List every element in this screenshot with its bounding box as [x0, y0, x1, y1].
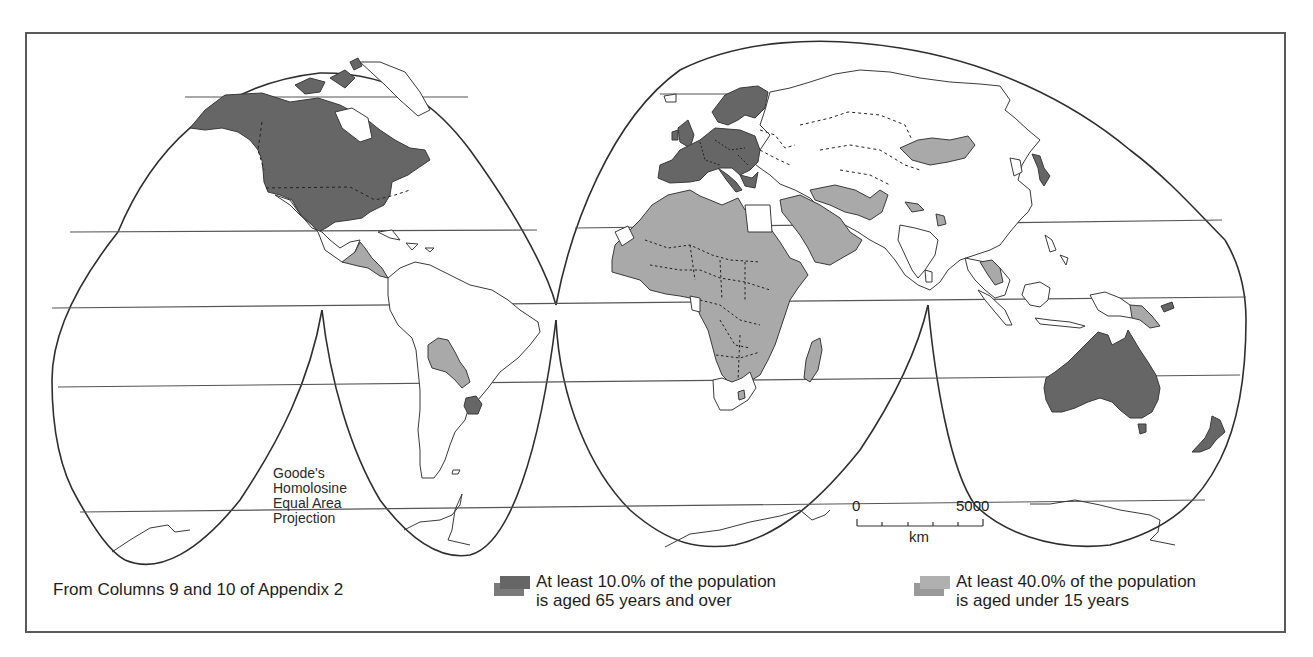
world-map	[0, 0, 1313, 657]
projection-label-line: Equal Area	[273, 496, 347, 511]
region-scandinavia	[712, 86, 768, 125]
region-png	[1130, 305, 1160, 328]
scale-unit-label: km	[909, 528, 929, 545]
projection-label: Goode's Homolosine Equal Area Projection	[273, 466, 347, 526]
region-japan	[1032, 154, 1050, 186]
legend-text-line: At least 40.0% of the population	[956, 572, 1196, 591]
legend-swatch-light-icon	[914, 576, 954, 598]
scale-end-label: 5000	[956, 497, 989, 514]
region-africa	[612, 190, 808, 385]
antarctica	[112, 494, 1175, 552]
north-america	[190, 58, 434, 278]
region-russia-asia	[750, 70, 1040, 290]
scale-bar: 0 5000 km	[852, 497, 1002, 547]
region-canada-usa	[190, 93, 430, 232]
south-america	[388, 262, 540, 478]
legend-text-line: At least 10.0% of the population	[536, 572, 776, 591]
oceania	[978, 235, 1225, 452]
projection-label-line: Goode's	[273, 466, 347, 481]
region-australia	[1044, 330, 1160, 418]
region-new-zealand	[1192, 416, 1225, 452]
legend-text-line: is aged 65 years and over	[536, 591, 776, 610]
source-note: From Columns 9 and 10 of Appendix 2	[53, 580, 343, 600]
projection-label-line: Projection	[273, 511, 347, 526]
projection-label-line: Homolosine	[273, 481, 347, 496]
legend-swatch-dark-icon	[494, 576, 534, 598]
region-madagascar	[804, 338, 822, 382]
region-ireland	[672, 130, 678, 140]
parallels	[52, 94, 1246, 512]
scale-start-label: 0	[852, 497, 860, 514]
legend-text-line: is aged under 15 years	[956, 591, 1196, 610]
